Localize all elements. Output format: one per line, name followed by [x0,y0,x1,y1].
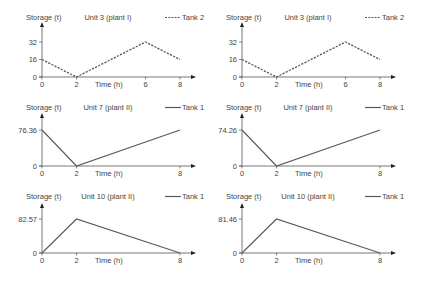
x-tick-label: 2 [74,169,78,178]
y-axis-label: Storage (t) [26,103,62,112]
legend-label: Tank 1 [382,192,404,201]
x-axis-label: Time (h) [295,80,323,89]
x-tick-label: 6 [143,80,147,89]
panel-title: Unit 7 (plant II) [83,103,133,112]
y-axis-label: Storage (t) [226,192,262,201]
y-axis-arrow-icon [240,203,244,208]
y-tick-label: 32 [229,38,237,47]
legend-label: Tank 1 [182,192,204,201]
x-tick-label: 8 [378,256,382,265]
legend-label: Tank 1 [182,103,204,112]
x-tick-label: 0 [240,169,244,178]
x-tick-label: 0 [40,256,44,265]
y-tick-label: 16 [229,55,237,64]
series-line-tank-2 [242,42,380,77]
series-line-tank-1 [42,130,180,166]
legend-label: Tank 2 [182,13,204,22]
series-line-tank-1 [42,219,180,253]
series-line-tank-1 [242,219,380,253]
y-tick-label: 82.57 [18,215,37,224]
y-tick-label: 0 [33,162,37,171]
y-axis-label: Storage (t) [26,192,62,201]
y-tick-label: 0 [33,73,37,82]
y-tick-label: 0 [233,73,237,82]
x-tick-label: 2 [274,169,278,178]
x-axis-label: Time (h) [95,80,123,89]
chart-panel-top-left: Storage (t)Unit 3 (plant I)Tank 20163202… [26,13,204,89]
x-tick-label: 2 [74,256,78,265]
x-axis-arrow-icon [391,164,396,168]
panel-title: Unit 3 (plant I) [84,13,132,22]
x-tick-label: 8 [178,169,182,178]
x-tick-label: 0 [40,169,44,178]
x-axis-arrow-icon [391,251,396,255]
x-axis-label: Time (h) [295,256,323,265]
panel-title: Unit 3 (plant I) [284,13,332,22]
x-tick-label: 2 [74,80,78,89]
chart-panel-bottom-right: Storage (t)Unit 10 (plant II)Tank 1081.4… [218,192,404,265]
y-tick-label: 0 [233,249,237,258]
y-axis-label: Storage (t) [226,13,262,22]
legend-label: Tank 1 [382,103,404,112]
legend-label: Tank 2 [382,13,404,22]
y-tick-label: 0 [233,162,237,171]
chart-grid: Storage (t)Unit 3 (plant I)Tank 20163202… [0,0,421,282]
x-axis-arrow-icon [191,164,196,168]
x-tick-label: 2 [274,80,278,89]
y-tick-label: 0 [33,249,37,258]
y-axis-arrow-icon [40,203,44,208]
x-axis-label: Time (h) [295,169,323,178]
panel-title: Unit 7 (plant II) [283,103,333,112]
y-tick-label: 81.46 [218,215,237,224]
x-tick-label: 2 [274,256,278,265]
chart-panel-middle-right: Storage (t)Unit 7 (plant II)Tank 1074.26… [218,103,404,178]
x-tick-label: 8 [178,256,182,265]
y-axis-label: Storage (t) [26,13,62,22]
y-axis-arrow-icon [40,113,44,118]
x-axis-arrow-icon [191,75,196,79]
y-axis-arrow-icon [40,22,44,27]
x-tick-label: 0 [240,80,244,89]
y-axis-arrow-icon [240,22,244,27]
x-axis-arrow-icon [391,75,396,79]
y-tick-label: 16 [29,55,37,64]
x-tick-label: 8 [178,80,182,89]
y-tick-label: 74.26 [218,126,237,135]
y-axis-arrow-icon [240,113,244,118]
panel-title: Unit 10 (plant II) [81,192,135,201]
y-tick-label: 76.36 [18,126,37,135]
chart-panel-bottom-left: Storage (t)Unit 10 (plant II)Tank 1082.5… [18,192,204,265]
panel-title: Unit 10 (plant II) [281,192,335,201]
x-tick-label: 0 [240,256,244,265]
x-axis-arrow-icon [191,251,196,255]
x-axis-label: Time (h) [95,169,123,178]
chart-panel-middle-left: Storage (t)Unit 7 (plant II)Tank 1076.36… [18,103,204,178]
chart-panel-top-right: Storage (t)Unit 3 (plant I)Tank 20163202… [226,13,404,89]
x-tick-label: 6 [343,80,347,89]
x-tick-label: 0 [40,80,44,89]
x-axis-label: Time (h) [95,256,123,265]
y-tick-label: 32 [29,38,37,47]
series-line-tank-2 [42,42,180,77]
series-line-tank-1 [242,130,380,166]
x-tick-label: 8 [378,80,382,89]
y-axis-label: Storage (t) [226,103,262,112]
x-tick-label: 8 [378,169,382,178]
